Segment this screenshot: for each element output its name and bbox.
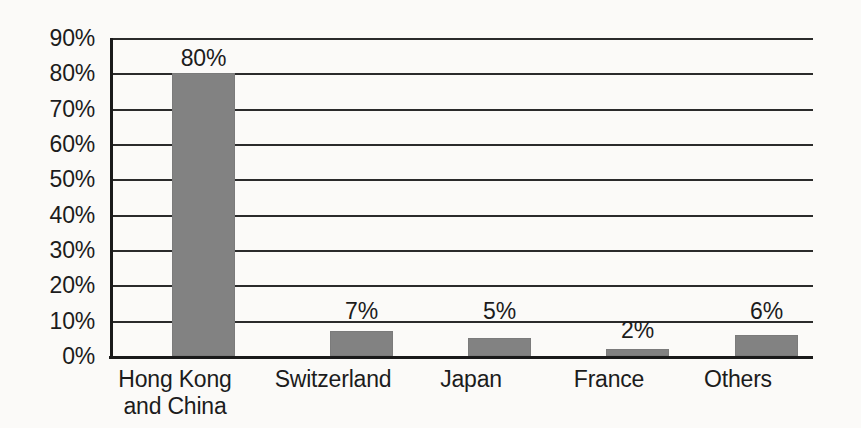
bar-value-hong-kong-and-china: 80% [152,47,255,70]
bar-value-switzerland: 7% [310,300,413,323]
bar-switzerland [330,331,393,356]
bar-japan [468,338,531,356]
bar-hong-kong-and-china [172,73,235,356]
y-tick-label-10: 10% [5,310,95,333]
plot-area: 80% 7% 5% 2% 6% [110,38,813,356]
gridline-90 [110,38,813,40]
bar-value-japan: 5% [448,300,551,323]
y-tick-label-80: 80% [5,62,95,85]
x-category-label-line-2: and China [85,393,265,420]
x-category-label-others: Others [648,366,828,393]
y-tick-label-90: 90% [5,27,95,50]
bar-value-others: 6% [715,300,818,323]
y-tick-label-0: 0% [5,345,95,368]
bar-france [606,349,669,356]
x-category-label-line-1: Others [648,366,828,393]
bar-value-france: 2% [586,319,689,342]
bar-others [735,335,798,356]
y-tick-label-30: 30% [5,239,95,262]
y-axis-line [110,38,113,356]
y-tick-label-20: 20% [5,274,95,297]
x-category-label-hong-kong-and-china: Hong Kong and China [85,366,265,420]
y-tick-label-50: 50% [5,168,95,191]
y-tick-label-40: 40% [5,204,95,227]
x-axis-line [109,356,813,359]
y-tick-label-60: 60% [5,133,95,156]
y-tick-label-70: 70% [5,98,95,121]
x-category-label-line-1: Hong Kong [85,366,265,393]
bar-chart: 90% 80% 70% 60% 50% 40% 30% 20% 10% 0% 8… [0,0,861,428]
